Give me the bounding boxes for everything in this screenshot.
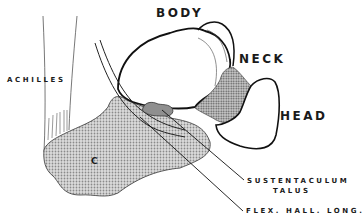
label-calcaneus: C [91,157,98,166]
label-flexor-hallucis-longus: FLEX. HALL. LONG. [246,208,364,215]
label-sustentaculum-line2: TALUS [273,188,311,195]
label-sustentaculum-line1: SUSTENTACULUM [247,178,349,185]
label-head: HEAD [280,110,328,122]
label-neck: NECK [239,53,285,65]
label-achilles: ACHILLES [7,77,66,84]
label-body: BODY [156,7,203,19]
calcaneus [44,96,210,196]
